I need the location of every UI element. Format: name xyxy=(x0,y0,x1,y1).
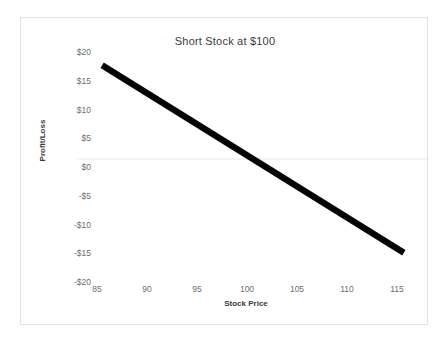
x-tick-label: 95 xyxy=(177,284,217,294)
payoff-plot xyxy=(77,34,429,284)
chart-frame: Short Stock at $100 Profit/Loss $20 $15 … xyxy=(20,17,428,325)
x-tick-label: 90 xyxy=(127,284,167,294)
x-tick-label: 115 xyxy=(377,284,417,294)
x-axis-title: Stock Price xyxy=(81,299,411,308)
x-tick-label: 110 xyxy=(327,284,367,294)
x-tick-label: 100 xyxy=(227,284,267,294)
x-tick-label: 105 xyxy=(277,284,317,294)
x-tick-label: 85 xyxy=(77,284,117,294)
x-axis-tick-labels: 85 90 95 100 105 110 115 xyxy=(21,284,429,298)
plot-area xyxy=(77,34,429,284)
y-axis-title: Profit/Loss xyxy=(38,101,47,181)
